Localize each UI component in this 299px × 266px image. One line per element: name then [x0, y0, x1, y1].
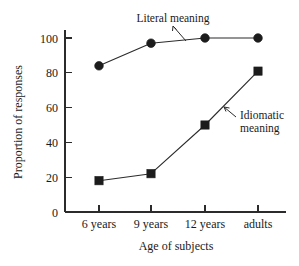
- literal-meaning-line: [99, 38, 258, 66]
- x-axis-title: Age of subjects: [139, 239, 214, 253]
- literal-meaning-point-9-years: [147, 39, 156, 48]
- annotation-idiomatic-meaning: Idiomatic meaning: [224, 107, 284, 135]
- y-tick-label-100: 100: [40, 32, 58, 46]
- literal-meaning-point-adults: [254, 34, 263, 43]
- annotation-literal-meaning-label: Literal meaning: [136, 12, 209, 25]
- idiomatic-meaning-point-adults: [254, 67, 262, 75]
- y-tick-label-40: 40: [46, 136, 58, 150]
- y-tick-label-0: 0: [52, 206, 58, 220]
- x-axis-tick-labels: 6 years 9 years 12 years adults: [82, 217, 273, 231]
- annotation-literal-meaning-arrowhead: [173, 26, 177, 31]
- y-tick-label-80: 80: [46, 66, 58, 80]
- y-axis-ticks: [65, 38, 72, 177]
- literal-meaning-point-12-years: [201, 34, 210, 43]
- idiomatic-meaning-point-12-years: [201, 121, 209, 129]
- idiomatic-meaning-line: [99, 71, 258, 181]
- series-literal-meaning: [95, 34, 263, 70]
- literal-meaning-point-6-years: [95, 62, 104, 71]
- idiomatic-meaning-point-9-years: [147, 170, 155, 178]
- line-chart: 100 80 60 40 20 0 6 years 9 years 12 yea…: [0, 0, 299, 266]
- y-tick-label-60: 60: [46, 101, 58, 115]
- x-tick-label-9-years: 9 years: [134, 217, 169, 231]
- y-axis-tick-labels: 100 80 60 40 20 0: [40, 32, 58, 220]
- x-axis-ticks: [99, 205, 258, 212]
- x-tick-label-adults: adults: [244, 217, 273, 231]
- chart-figure: 100 80 60 40 20 0 6 years 9 years 12 yea…: [0, 0, 299, 266]
- annotation-literal-meaning: Literal meaning: [136, 12, 209, 41]
- annotation-idiomatic-meaning-label-line1: Idiomatic: [240, 109, 284, 121]
- x-tick-label-12-years: 12 years: [185, 217, 226, 231]
- y-tick-label-20: 20: [46, 171, 58, 185]
- annotation-idiomatic-meaning-label-line2: meaning: [240, 122, 280, 135]
- y-axis-title: Proportion of responses: [11, 65, 25, 179]
- x-tick-label-6-years: 6 years: [82, 217, 117, 231]
- series-idiomatic-meaning: [95, 67, 262, 185]
- idiomatic-meaning-point-6-years: [95, 177, 103, 185]
- annotation-idiomatic-meaning-leader: [224, 107, 236, 117]
